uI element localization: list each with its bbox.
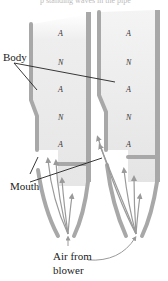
left-pipe-node-3: A — [58, 86, 63, 94]
mouth-label: Mouth — [10, 181, 39, 192]
left-pipe — [31, 12, 91, 236]
blower-label: blower — [53, 265, 84, 276]
right-pipe-node-4: N — [126, 114, 131, 122]
right-pipe-node-5: A — [126, 141, 131, 149]
left-pipe-node-2: N — [58, 59, 63, 67]
organ-pipes-diagram — [0, 0, 168, 281]
right-pipe-node-3: A — [126, 86, 131, 94]
left-pipe-node-1: A — [58, 30, 63, 38]
left-pipe-node-4: N — [58, 114, 63, 122]
left-pipe-node-5: A — [58, 141, 63, 149]
right-pipe-node-2: N — [126, 59, 131, 67]
air-from-label: Air from — [53, 251, 92, 262]
right-pipe-node-1: A — [126, 30, 131, 38]
right-pipe — [98, 10, 160, 236]
organ-pipe-figure: p standing waves in the pipe — [0, 0, 168, 281]
body-label: Body — [3, 52, 27, 63]
